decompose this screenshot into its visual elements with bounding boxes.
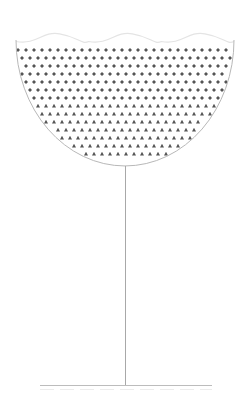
triangle-dot-icon — [148, 104, 152, 108]
triangle-dot-icon — [108, 136, 112, 140]
triangle-dot-icon — [132, 120, 136, 124]
diamond-dot-icon — [180, 72, 184, 76]
diamond-dot-icon — [176, 48, 180, 52]
diamond-dot-icon — [176, 64, 180, 68]
diamond-dot-icon — [208, 48, 212, 52]
diamond-dot-icon — [188, 88, 192, 92]
triangle-dot-icon — [192, 112, 196, 116]
triangle-dot-icon — [144, 112, 148, 116]
triangle-dot-icon — [132, 104, 136, 108]
triangle-dot-icon — [196, 120, 200, 124]
diamond-dot-icon — [128, 64, 132, 68]
triangle-dot-icon — [152, 112, 156, 116]
diamond-dot-icon — [156, 72, 160, 76]
diamond-dot-icon — [200, 80, 204, 84]
diamond-dot-icon — [172, 72, 176, 76]
diamond-dot-icon — [100, 88, 104, 92]
triangle-dot-icon — [108, 120, 112, 124]
diamond-dot-icon — [168, 80, 172, 84]
triangle-dot-icon — [116, 104, 120, 108]
diamond-dot-icon — [36, 88, 40, 92]
diamond-dot-icon — [112, 80, 116, 84]
diamond-dot-icon — [132, 72, 136, 76]
diamond-dot-icon — [104, 80, 108, 84]
triangle-dot-icon — [136, 144, 140, 148]
triangle-dot-icon — [152, 144, 156, 148]
triangle-dot-icon — [128, 112, 132, 116]
diamond-dot-icon — [192, 96, 196, 100]
triangle-dot-icon — [204, 104, 208, 108]
triangle-dot-icon — [108, 152, 112, 156]
diamond-dot-icon — [40, 80, 44, 84]
triangle-dot-icon — [176, 112, 180, 116]
triangle-dot-icon — [188, 136, 192, 140]
triangle-dot-icon — [120, 112, 124, 116]
triangle-dot-icon — [120, 128, 124, 132]
triangle-dot-icon — [96, 128, 100, 132]
diamond-dot-icon — [36, 56, 40, 60]
triangle-dot-icon — [124, 136, 128, 140]
diamond-dot-icon — [216, 80, 220, 84]
triangle-dot-icon — [72, 128, 76, 132]
diamond-dot-icon — [208, 96, 212, 100]
diamond-dot-icon — [140, 72, 144, 76]
diamond-dot-icon — [104, 64, 108, 68]
triangle-dot-icon — [184, 128, 188, 132]
diamond-dot-icon — [216, 96, 220, 100]
triangle-dot-icon — [92, 136, 96, 140]
triangle-dot-icon — [132, 136, 136, 140]
diamond-dot-icon — [64, 48, 68, 52]
triangle-dot-icon — [76, 136, 80, 140]
diamond-dot-icon — [60, 72, 64, 76]
triangle-dot-icon — [188, 104, 192, 108]
diamond-dot-icon — [152, 80, 156, 84]
diamond-dot-icon — [108, 56, 112, 60]
diamond-dot-icon — [120, 48, 124, 52]
diamond-dot-icon — [100, 72, 104, 76]
diamond-dot-icon — [92, 88, 96, 92]
diamond-dot-icon — [220, 88, 224, 92]
triangle-dot-icon — [124, 152, 128, 156]
diamond-dot-icon — [64, 64, 68, 68]
diamond-dot-icon — [120, 64, 124, 68]
diamond-dot-icon — [160, 96, 164, 100]
triangle-dot-icon — [112, 128, 116, 132]
triangle-dot-icon — [156, 120, 160, 124]
triangle-dot-icon — [104, 112, 108, 116]
diamond-dot-icon — [32, 96, 36, 100]
diamond-dot-icon — [208, 80, 212, 84]
triangle-dot-icon — [116, 120, 120, 124]
triangle-dot-icon — [152, 128, 156, 132]
triangle-dot-icon — [148, 136, 152, 140]
dot-pattern — [16, 48, 232, 156]
diamond-dot-icon — [28, 72, 32, 76]
diamond-dot-icon — [80, 48, 84, 52]
triangle-dot-icon — [96, 144, 100, 148]
triangle-dot-icon — [64, 128, 68, 132]
triangle-dot-icon — [80, 112, 84, 116]
triangle-dot-icon — [168, 144, 172, 148]
diamond-dot-icon — [148, 56, 152, 60]
triangle-dot-icon — [84, 120, 88, 124]
diamond-dot-icon — [144, 96, 148, 100]
diamond-dot-icon — [104, 48, 108, 52]
triangle-dot-icon — [160, 112, 164, 116]
diamond-dot-icon — [200, 64, 204, 68]
triangle-dot-icon — [112, 112, 116, 116]
diamond-dot-icon — [148, 72, 152, 76]
diamond-dot-icon — [36, 72, 40, 76]
diamond-dot-icon — [116, 88, 120, 92]
triangle-dot-icon — [140, 104, 144, 108]
triangle-dot-icon — [180, 136, 184, 140]
diamond-dot-icon — [132, 88, 136, 92]
diamond-dot-icon — [204, 88, 208, 92]
diamond-dot-icon — [40, 96, 44, 100]
triangle-dot-icon — [76, 104, 80, 108]
triangle-dot-icon — [80, 128, 84, 132]
diamond-dot-icon — [140, 88, 144, 92]
diamond-dot-icon — [144, 80, 148, 84]
triangle-dot-icon — [100, 152, 104, 156]
triangle-dot-icon — [40, 112, 44, 116]
triangle-dot-icon — [164, 104, 168, 108]
diamond-dot-icon — [164, 56, 168, 60]
